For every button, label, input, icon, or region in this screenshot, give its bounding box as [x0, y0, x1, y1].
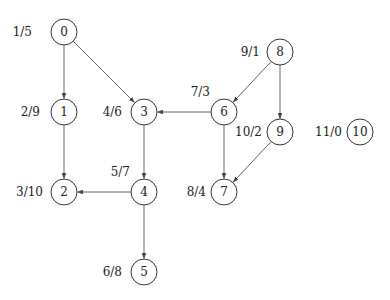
nodes-layer: 012345678910 — [51, 19, 373, 285]
node-5: 5 — [131, 259, 157, 285]
node-2: 2 — [51, 179, 77, 205]
node-1-timestamp-label: 2/9 — [21, 105, 40, 119]
edge-9-to-7 — [233, 142, 271, 183]
node-2-timestamp-label: 3/10 — [16, 185, 43, 199]
node-9-timestamp-label: 10/2 — [235, 125, 262, 139]
node-id-text: 3 — [140, 105, 148, 119]
node-9: 9 — [267, 119, 293, 145]
node-10-timestamp-label: 11/0 — [315, 125, 342, 139]
edge-0-to-3 — [73, 41, 134, 102]
graph-diagram: 012345678910 1/52/93/104/65/76/87/38/49/… — [0, 0, 390, 300]
node-7-timestamp-label: 8/4 — [187, 185, 207, 199]
node-1: 1 — [51, 99, 77, 125]
node-id-text: 1 — [60, 105, 68, 119]
node-6: 6 — [211, 99, 237, 125]
node-5-timestamp-label: 6/8 — [103, 265, 122, 279]
node-id-text: 6 — [220, 105, 228, 119]
node-id-text: 2 — [60, 185, 68, 199]
node-id-text: 5 — [140, 265, 148, 279]
node-8: 8 — [267, 39, 293, 65]
node-id-text: 9 — [276, 125, 284, 139]
node-id-text: 10 — [352, 125, 367, 139]
node-id-text: 8 — [276, 45, 284, 59]
node-4-timestamp-label: 5/7 — [111, 165, 130, 179]
node-3: 3 — [131, 99, 157, 125]
edge-8-to-6 — [233, 62, 271, 103]
node-7: 7 — [211, 179, 237, 205]
node-8-timestamp-label: 9/1 — [241, 45, 260, 59]
node-id-text: 4 — [140, 185, 148, 199]
node-0-timestamp-label: 1/5 — [13, 25, 32, 39]
node-6-timestamp-label: 7/3 — [191, 85, 210, 99]
node-id-text: 7 — [220, 185, 228, 199]
node-0: 0 — [51, 19, 77, 45]
edges-layer — [64, 41, 280, 258]
node-4: 4 — [131, 179, 157, 205]
labels-layer: 1/52/93/104/65/76/87/38/49/110/211/0 — [13, 25, 342, 279]
node-10: 10 — [347, 119, 373, 145]
node-id-text: 0 — [60, 25, 68, 39]
node-3-timestamp-label: 4/6 — [103, 105, 122, 119]
